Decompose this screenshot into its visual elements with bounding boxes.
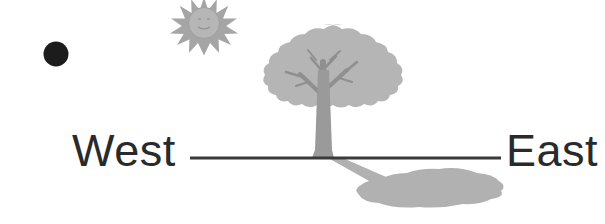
west-label: West bbox=[72, 128, 176, 173]
sun-icon bbox=[170, 0, 238, 56]
tree bbox=[263, 25, 403, 159]
sun-core-icon bbox=[189, 8, 220, 39]
tree-canopy bbox=[263, 25, 403, 108]
diagram-canvas: West East bbox=[0, 0, 605, 224]
scene-illustration bbox=[0, 0, 605, 224]
dark-dot bbox=[44, 42, 69, 67]
tree-shadow bbox=[330, 159, 504, 208]
east-label: East bbox=[506, 128, 598, 173]
ground-line bbox=[190, 157, 501, 160]
